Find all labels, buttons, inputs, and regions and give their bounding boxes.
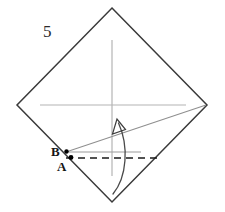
point-b-label: B (51, 145, 60, 158)
point-a-label: A (57, 160, 66, 173)
point-b-dot (64, 149, 68, 153)
step-number: 5 (43, 23, 52, 40)
origami-step-figure: 5 B A (0, 0, 225, 212)
fold-direction-arrowhead (113, 119, 126, 134)
point-a-dot (69, 155, 74, 160)
diagram-canvas (0, 0, 225, 212)
